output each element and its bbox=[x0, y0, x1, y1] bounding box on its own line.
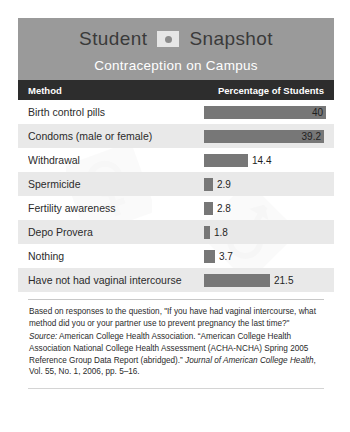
table-column-header: Method Percentage of Students bbox=[18, 80, 334, 100]
bar-value-0: 40 bbox=[312, 107, 323, 118]
row-bar-area: 2.9 bbox=[204, 178, 324, 191]
row-label: Depo Provera bbox=[28, 226, 204, 238]
row-label: Birth control pills bbox=[28, 106, 204, 118]
bar-3 bbox=[204, 178, 213, 191]
bar-value-6: 3.7 bbox=[219, 251, 233, 262]
column-header-method: Method bbox=[28, 85, 62, 96]
footnote: Based on responses to the question, "If … bbox=[18, 300, 334, 378]
row-label: Spermicide bbox=[28, 178, 204, 190]
table-row: Birth control pills 40 bbox=[18, 100, 334, 124]
bar-value-1: 39.2 bbox=[302, 131, 321, 142]
bar-value-3: 2.9 bbox=[217, 179, 231, 190]
table-row: Spermicide 2.9 bbox=[18, 172, 334, 196]
row-bar-area: 39.2 bbox=[204, 130, 324, 143]
footnote-note: Based on responses to the question, "If … bbox=[29, 306, 323, 330]
table-row: Fertility awareness 2.8 bbox=[18, 196, 334, 220]
footnote-source: Source: American College Health Associat… bbox=[29, 331, 323, 379]
table-row: Depo Provera 1.8 bbox=[18, 220, 334, 244]
table-row: Have not had vaginal intercourse 21.5 bbox=[18, 268, 334, 292]
bar-0 bbox=[204, 106, 326, 119]
row-bar-area: 3.7 bbox=[204, 250, 324, 263]
bar-6 bbox=[204, 250, 215, 263]
bar-value-2: 14.4 bbox=[252, 155, 271, 166]
row-bar-area: 40 bbox=[204, 106, 326, 119]
row-bar-area: 14.4 bbox=[204, 154, 324, 167]
bar-value-4: 2.8 bbox=[217, 203, 231, 214]
infographic-card: Student Snapshot Contraception on Campus… bbox=[18, 18, 334, 415]
page-title-left: Student bbox=[79, 28, 147, 50]
page-subtitle: Contraception on Campus bbox=[18, 58, 334, 73]
row-bar-area: 21.5 bbox=[204, 274, 324, 287]
row-label: Fertility awareness bbox=[28, 202, 204, 214]
bar-5 bbox=[204, 226, 210, 239]
row-label: Have not had vaginal intercourse bbox=[28, 274, 204, 286]
badge-dot bbox=[165, 36, 172, 43]
bar-2 bbox=[204, 154, 248, 167]
bar-value-5: 1.8 bbox=[214, 227, 228, 238]
table-body: Birth control pills 40 Condoms (male or … bbox=[18, 100, 334, 292]
row-bar-area: 1.8 bbox=[204, 226, 324, 239]
table-row: Nothing 3.7 bbox=[18, 244, 334, 268]
dot-badge-icon bbox=[157, 31, 179, 47]
row-label: Withdrawal bbox=[28, 154, 204, 166]
footnote-journal: Journal of American College Health bbox=[185, 356, 314, 365]
bar-4 bbox=[204, 202, 213, 215]
title-row: Student Snapshot bbox=[18, 18, 334, 54]
bar-value-7: 21.5 bbox=[274, 275, 293, 286]
row-label: Nothing bbox=[28, 250, 204, 262]
footnote-source-label: Source: bbox=[29, 332, 57, 341]
table-row: Condoms (male or female) 39.2 bbox=[18, 124, 334, 148]
bar-7 bbox=[204, 274, 270, 287]
row-bar-area: 2.8 bbox=[204, 202, 324, 215]
card-bottom-divider bbox=[28, 388, 324, 389]
row-label: Condoms (male or female) bbox=[28, 130, 204, 142]
page-title-right: Snapshot bbox=[189, 28, 273, 50]
table-row: Withdrawal 14.4 bbox=[18, 148, 334, 172]
column-header-percentage: Percentage of Students bbox=[218, 85, 324, 96]
card-header: Student Snapshot Contraception on Campus bbox=[18, 18, 334, 80]
